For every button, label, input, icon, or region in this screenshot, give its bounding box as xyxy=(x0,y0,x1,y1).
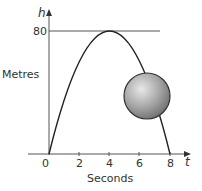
y-axis-arrow-icon xyxy=(46,9,52,16)
x-tick-0: 0 xyxy=(42,157,49,170)
x-tick-2: 2 xyxy=(76,157,83,170)
y-axis-label: Metres xyxy=(2,68,40,81)
y-tick-80: 80 xyxy=(33,25,47,38)
height-time-chart: h 80 Metres t 0 2 4 6 8 Seconds xyxy=(0,0,202,191)
x-axis-label: Seconds xyxy=(87,172,133,185)
x-tick-6: 6 xyxy=(136,157,143,170)
ball-icon xyxy=(124,73,170,119)
x-tick-8: 8 xyxy=(167,157,174,170)
x-axis-symbol: t xyxy=(185,155,191,169)
y-axis-symbol: h xyxy=(38,6,46,20)
x-tick-4: 4 xyxy=(106,157,113,170)
